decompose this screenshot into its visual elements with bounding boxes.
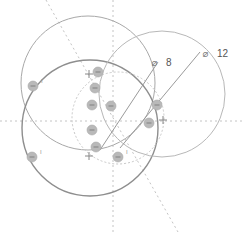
diameter-value-label: 8 xyxy=(166,57,172,68)
diagonal-guide xyxy=(46,0,178,232)
point-marker xyxy=(106,101,116,111)
point-marker xyxy=(90,83,100,93)
diameter-symbol-icon: ⌀ xyxy=(202,48,209,59)
geometry-diagram: ⌀8⌀12 III xyxy=(0,0,242,232)
point-marker xyxy=(87,125,97,135)
guide-lines xyxy=(0,0,242,232)
point-marker xyxy=(93,67,103,77)
point-marker xyxy=(144,118,154,128)
point-markers: III xyxy=(27,67,162,162)
point-marker xyxy=(91,142,101,152)
point-marker xyxy=(152,100,162,110)
dimension-annotations: ⌀8⌀12 xyxy=(100,48,229,150)
diameter-value-label: 12 xyxy=(217,48,229,59)
circles-group xyxy=(21,16,225,196)
center-cross-icon xyxy=(85,152,93,160)
center-cross-icon xyxy=(159,116,167,124)
point-marker: I xyxy=(113,149,128,162)
point-marker: I xyxy=(28,78,43,91)
diameter-symbol-icon: ⌀ xyxy=(151,57,158,68)
marker-tick-label: I xyxy=(126,149,128,155)
point-marker xyxy=(87,100,97,110)
dimension-leader-line xyxy=(120,52,200,148)
point-marker: I xyxy=(27,149,42,162)
marker-tick-label: I xyxy=(40,149,42,155)
